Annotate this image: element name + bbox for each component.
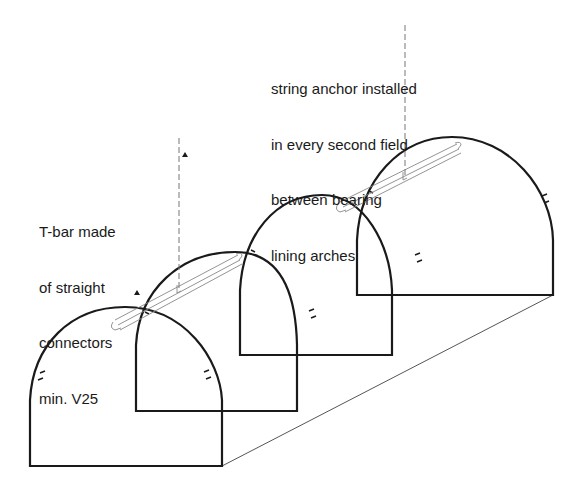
string-anchor-annotation: string anchor installed in every second … <box>271 43 417 302</box>
t-bar-connector-1 <box>111 253 242 330</box>
floor-guide-line <box>222 295 553 466</box>
annotation-line: in every second field <box>271 136 417 155</box>
annotation-line: T-bar made <box>39 223 116 242</box>
marker-triangle-icon <box>134 290 140 295</box>
annotation-line: lining arches <box>271 247 417 266</box>
annotation-line: min. V25 <box>39 390 116 409</box>
annotation-line: string anchor installed <box>271 80 417 99</box>
tunnel-lining-diagram: string anchor installed in every second … <box>0 0 580 491</box>
annotation-line: between bearing <box>271 191 417 210</box>
annotation-line: connectors <box>39 334 116 353</box>
marker-triangle-icon <box>182 152 188 157</box>
annotation-line: of straight <box>39 279 116 298</box>
t-bar-annotation: T-bar made of straight connectors min. V… <box>39 186 116 445</box>
